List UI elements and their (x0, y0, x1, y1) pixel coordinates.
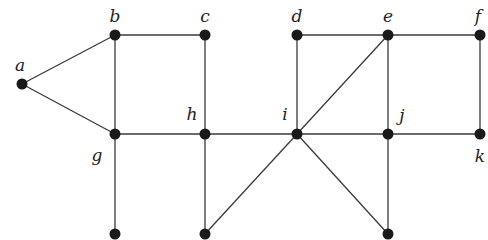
node-label-c: c (200, 6, 210, 26)
node-c (200, 30, 211, 41)
node-label-b: b (110, 6, 121, 26)
edge-i-r (297, 134, 388, 234)
node-f (475, 30, 486, 41)
node-p (110, 229, 121, 240)
edge-a-b (22, 35, 115, 84)
labels-group: abcdefghijk (15, 6, 485, 166)
edge-e-i (297, 35, 388, 134)
node-label-e: e (383, 6, 393, 26)
node-e (383, 30, 394, 41)
node-j (383, 129, 394, 140)
node-h (200, 129, 211, 140)
node-i (292, 129, 303, 140)
node-label-d: d (292, 6, 303, 26)
node-q (200, 229, 211, 240)
node-label-j: j (395, 105, 405, 125)
node-g (110, 129, 121, 140)
node-a (17, 79, 28, 90)
node-label-k: k (475, 146, 485, 166)
graph-diagram: abcdefghijk (0, 0, 488, 240)
edge-i-q (205, 134, 297, 234)
node-label-h: h (187, 104, 198, 124)
node-r (383, 229, 394, 240)
edge-a-g (22, 84, 115, 134)
node-label-a: a (15, 55, 25, 75)
node-label-f: f (473, 6, 484, 26)
node-d (292, 30, 303, 41)
node-b (110, 30, 121, 41)
node-k (475, 129, 486, 140)
node-label-g: g (92, 145, 103, 165)
edges-group (22, 35, 480, 234)
node-label-i: i (282, 104, 287, 124)
